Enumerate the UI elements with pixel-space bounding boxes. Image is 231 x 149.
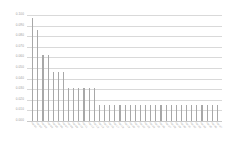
- y-axis-tick-label: 0.100: [16, 13, 24, 16]
- y-axis-tick-label: 0.020: [16, 98, 24, 101]
- bar: [166, 105, 167, 121]
- y-axis-tick-label: 0.080: [16, 35, 24, 38]
- bar: [63, 72, 64, 121]
- y-axis-tick-label: 0.070: [16, 45, 24, 48]
- bar: [140, 105, 141, 121]
- bar: [114, 105, 115, 121]
- bar: [89, 88, 90, 121]
- y-axis-tick-label: 0.030: [16, 88, 24, 91]
- bar: [201, 105, 202, 121]
- y-axis-tick-label: 0.050: [16, 66, 24, 69]
- bar: [109, 105, 110, 121]
- bar: [48, 55, 49, 121]
- bar: [212, 105, 213, 121]
- bar: [217, 105, 218, 121]
- x-axis-tick-labels: cat-01cat-02cat-03cat-04cat-05cat-06cat-…: [27, 122, 222, 149]
- y-axis-tick-label: 0.010: [16, 109, 24, 112]
- bar: [104, 105, 105, 121]
- y-axis-tick-label: 0.000: [16, 119, 24, 122]
- bar: [125, 105, 126, 121]
- bar: [73, 88, 74, 121]
- y-axis-tick-label: 0.060: [16, 56, 24, 59]
- bar: [171, 105, 172, 121]
- bar: [53, 72, 54, 121]
- bar: [32, 18, 33, 121]
- bar: [130, 105, 131, 121]
- bar-series: [27, 15, 222, 121]
- bar: [42, 55, 43, 121]
- plot-area: [27, 15, 222, 121]
- y-axis-tick-label: 0.040: [16, 77, 24, 80]
- bar: [145, 105, 146, 121]
- bar: [155, 105, 156, 121]
- bar: [186, 105, 187, 121]
- bar: [68, 88, 69, 121]
- bar: [58, 72, 59, 121]
- bar: [176, 105, 177, 121]
- bar: [191, 105, 192, 121]
- y-axis-tick-labels: 0.1000.0900.0800.0700.0600.0500.0400.030…: [0, 15, 26, 121]
- bar: [99, 105, 100, 121]
- bar: [94, 88, 95, 121]
- bar: [83, 88, 84, 121]
- bar: [37, 30, 38, 121]
- bar: [181, 105, 182, 121]
- bar: [207, 105, 208, 121]
- bar-chart: 0.1000.0900.0800.0700.0600.0500.0400.030…: [0, 0, 231, 149]
- bar: [119, 105, 120, 121]
- bar: [135, 105, 136, 121]
- bar: [160, 105, 161, 121]
- bar: [196, 105, 197, 121]
- bar: [78, 88, 79, 121]
- bar: [150, 105, 151, 121]
- y-axis-tick-label: 0.090: [16, 24, 24, 27]
